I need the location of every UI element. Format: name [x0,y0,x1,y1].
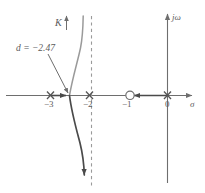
tick-label-minus3: −3 [44,100,54,109]
breakaway-point-label: d = −2.47 [16,44,55,54]
tick-label-zero: 0 [165,100,170,109]
breakaway-leader-line [48,54,68,93]
root-locus-canvas [0,0,205,193]
tick-label-minus2: −2 [83,100,93,109]
tick-label-minus1: −1 [122,100,132,109]
real-axis-label: σ [190,100,194,109]
locus-branch-upper [70,16,84,96]
imaginary-axis-label: jω [172,13,181,22]
gain-arrow-label: K [55,18,62,28]
root-locus-figure: −3 −2 −1 0 σ jω K d = −2.47 [0,0,205,193]
